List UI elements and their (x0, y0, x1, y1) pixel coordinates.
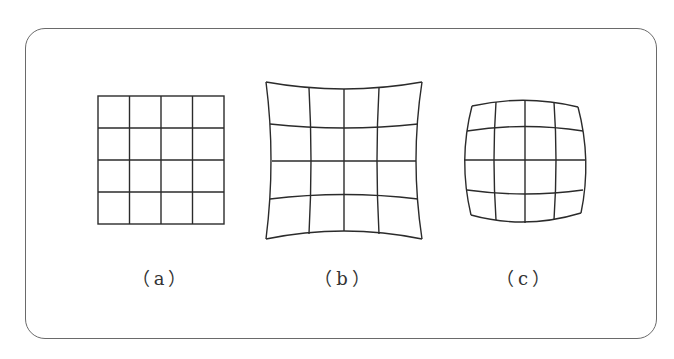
panel-label-a: （a） (132, 264, 191, 290)
figure: （a） （b） （c） (0, 0, 674, 359)
grids (0, 0, 674, 359)
grid-c-barrel (464, 100, 586, 223)
grid-b-pincushion (266, 82, 422, 239)
panel-label-c: （c） (496, 264, 554, 290)
grid-a-undistorted (98, 96, 224, 224)
panel-label-b: （b） (314, 264, 374, 290)
